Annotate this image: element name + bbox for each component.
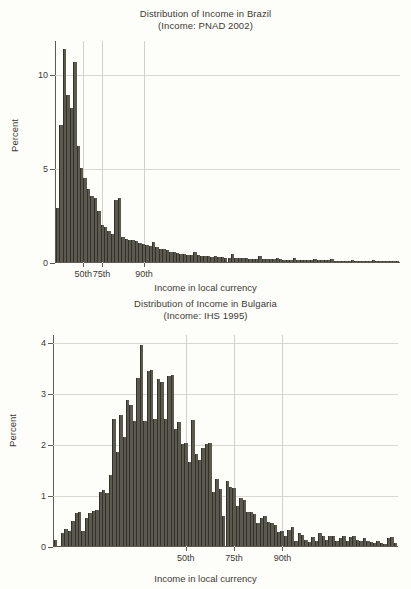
chart-bulgaria-y-tick bbox=[48, 343, 53, 344]
chart-bulgaria-x-tick bbox=[234, 547, 235, 551]
chart-brazil-x-tick-label-50th: 50th bbox=[75, 269, 93, 279]
chart-bulgaria-y-axis-label: Percent bbox=[7, 414, 18, 447]
chart-bulgaria-x-tick-label-50th: 50th bbox=[177, 553, 195, 563]
chart-bulgaria-y-tick-label: 0 bbox=[41, 542, 46, 552]
chart-bulgaria-y-tick-label: 4 bbox=[41, 338, 46, 348]
chart-brazil-y-tick bbox=[50, 263, 55, 264]
chart-brazil-plot-area: 0510 50th75th90th bbox=[55, 41, 400, 263]
chart-brazil-bars bbox=[56, 41, 400, 262]
chart-bulgaria-y-tick bbox=[48, 394, 53, 395]
chart-brazil-y-tick bbox=[50, 75, 55, 76]
chart-brazil-x-tick bbox=[144, 263, 145, 267]
chart-brazil-y-tick-label: 5 bbox=[43, 164, 48, 174]
chart-brazil-x-tick-label-75th: 75th bbox=[93, 269, 111, 279]
chart-bulgaria: Distribution of Income in Bulgaria (Inco… bbox=[0, 294, 411, 589]
chart-bulgaria-x-tick bbox=[282, 547, 283, 551]
chart-bulgaria-y-tick bbox=[48, 496, 53, 497]
chart-bulgaria-title-line1: Distribution of Income in Bulgaria bbox=[0, 298, 411, 310]
chart-bulgaria-y-tick bbox=[48, 547, 53, 548]
chart-brazil-y-axis-label: Percent bbox=[9, 119, 20, 152]
chart-brazil-y-tick-label: 0 bbox=[43, 258, 48, 268]
chart-bulgaria-bar bbox=[394, 543, 397, 546]
chart-bulgaria-x-tick-label-75th: 75th bbox=[225, 553, 243, 563]
chart-bulgaria-plot-area: 01234 50th75th90th bbox=[53, 335, 398, 547]
chart-brazil-x-axis-line bbox=[55, 262, 400, 263]
chart-bulgaria-x-tick bbox=[186, 547, 187, 551]
chart-bulgaria-bar bbox=[54, 540, 57, 546]
chart-bulgaria-y-tick-label: 2 bbox=[41, 440, 46, 450]
chart-brazil-x-axis-label: Income in local currency bbox=[0, 282, 411, 293]
chart-bulgaria-bars bbox=[54, 335, 398, 546]
chart-bulgaria-y-tick-label: 1 bbox=[41, 491, 46, 501]
chart-bulgaria-x-axis-label: Income in local currency bbox=[0, 573, 411, 584]
chart-brazil-x-tick-label-90th: 90th bbox=[135, 269, 153, 279]
chart-brazil-y-tick-label: 10 bbox=[38, 70, 48, 80]
chart-bulgaria-title: Distribution of Income in Bulgaria (Inco… bbox=[0, 298, 411, 322]
chart-brazil-title: Distribution of Income in Brazil (Income… bbox=[0, 8, 411, 32]
chart-bulgaria-x-tick-label-90th: 90th bbox=[274, 553, 292, 563]
chart-brazil-title-line1: Distribution of Income in Brazil bbox=[0, 8, 411, 20]
chart-bulgaria-x-axis-line bbox=[53, 546, 398, 547]
chart-brazil-title-line2: (Income: PNAD 2002) bbox=[0, 20, 411, 32]
chart-brazil-x-tick bbox=[102, 263, 103, 267]
chart-brazil-x-tick bbox=[83, 263, 84, 267]
chart-bulgaria-title-line2: (Income: IHS 1995) bbox=[0, 310, 411, 322]
chart-brazil: Distribution of Income in Brazil (Income… bbox=[0, 0, 411, 294]
chart-brazil-bar bbox=[396, 261, 399, 262]
chart-bulgaria-y-tick-label: 3 bbox=[41, 389, 46, 399]
chart-brazil-y-tick bbox=[50, 169, 55, 170]
chart-bulgaria-y-tick bbox=[48, 445, 53, 446]
